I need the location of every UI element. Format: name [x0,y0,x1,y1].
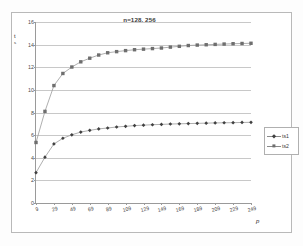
data-point [151,47,154,50]
series-line [36,122,251,172]
y-tick-label: 12 [28,64,34,70]
data-point [88,129,92,133]
y-tick-label: 8 [31,110,34,116]
legend-item-ts2[interactable]: ts2 [267,141,296,151]
data-point [151,123,155,127]
data-point [222,121,226,125]
data-point [79,60,82,63]
data-point [160,123,164,127]
data-point [79,130,83,134]
x-tick-label: 169 [175,204,185,212]
data-point [88,57,91,60]
data-point [124,49,127,52]
legend-swatch-icon [267,133,281,140]
data-point [178,45,181,48]
data-point [115,50,118,53]
data-point [213,121,217,125]
data-point [43,110,46,113]
data-point [231,121,235,125]
data-point [169,122,173,126]
x-axis-title: p [256,218,259,224]
data-point [106,51,109,54]
data-point [70,133,74,137]
data-point [240,42,243,45]
data-point [195,122,199,126]
data-point [106,126,110,130]
data-point [249,121,253,125]
x-tick-label: 129 [139,204,149,212]
data-point [133,124,137,128]
series-layer [36,22,251,203]
series-ts1 [34,121,253,175]
data-point [177,122,181,126]
y-tick-label: 4 [31,155,34,161]
y-axis-title-line2: s [14,40,16,47]
x-tick-label: 109 [121,204,131,212]
chart-legend[interactable]: ts1ts2 [264,127,299,155]
data-point [196,43,199,46]
data-point [160,46,163,49]
series-ts2 [34,42,252,145]
data-point [222,42,225,45]
data-point [142,47,145,50]
data-point [187,44,190,47]
data-point [34,141,37,144]
data-point [204,121,208,125]
data-point [240,121,244,125]
y-tick-label: 14 [28,42,34,48]
data-point [142,123,146,127]
data-point [52,84,55,87]
y-tick-label: 6 [31,132,34,138]
square-marker-icon [272,144,275,147]
y-tick-label: 16 [28,19,34,25]
x-tick-label: 9 [35,205,39,212]
y-axis-title: t s [14,33,16,46]
x-tick-label: 249 [247,204,257,212]
data-point [97,127,101,131]
diamond-marker-icon [272,134,276,138]
x-tick-label: 49 [69,205,76,212]
chart-page: n=128, 256 t s p 0246810121416 929496989… [0,0,303,246]
data-point [169,45,172,48]
chart-frame: n=128, 256 t s p 0246810121416 929496989… [11,12,292,233]
data-point [34,171,38,175]
legend-item-ts1[interactable]: ts1 [267,131,296,141]
series-line [36,43,251,142]
x-tick-label: 69 [87,205,94,212]
x-tick-label: 89 [105,205,112,212]
data-point [97,53,100,56]
x-tick-label: 209 [211,204,221,212]
data-point [115,125,119,129]
legend-label: ts2 [282,143,289,149]
y-axis-title-line1: t [14,33,16,40]
x-tick-label: 229 [229,204,239,212]
y-tick-label: 2 [31,177,34,183]
x-tick-label: 29 [51,205,58,212]
x-tick-label: 149 [157,204,167,212]
data-point [231,42,234,45]
x-tick-label: 189 [193,204,203,212]
data-point [133,48,136,51]
data-point [186,122,190,126]
data-point [213,43,216,46]
plot-area: 0246810121416 92949698910912914916918920… [35,22,251,204]
legend-label: ts1 [282,133,289,139]
data-point [61,72,64,75]
data-point [124,124,128,128]
data-point [249,42,252,45]
y-tick-label: 10 [28,87,34,93]
legend-swatch-icon [267,143,281,150]
data-point [205,43,208,46]
data-point [70,65,73,68]
y-tick-label: 0 [31,200,34,206]
